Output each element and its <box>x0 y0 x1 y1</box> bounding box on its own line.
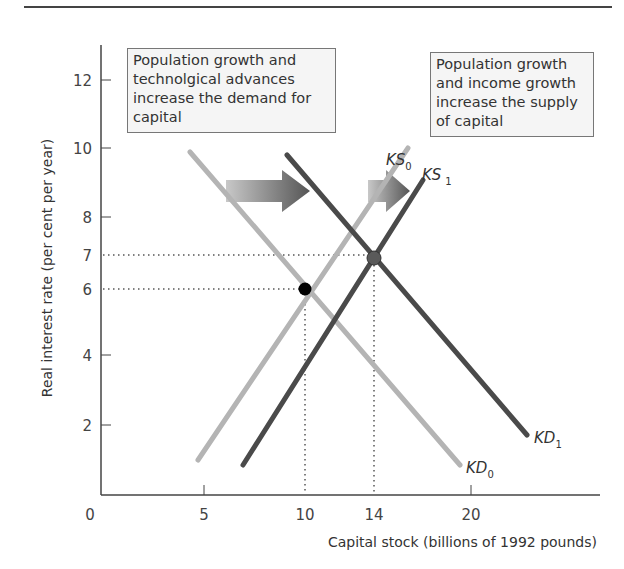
y-axis-title: Real interest rate (per cent per year) <box>39 139 55 397</box>
y-tick-7: 7 <box>82 247 92 265</box>
y-tick-8: 8 <box>82 209 92 227</box>
kd0-label: KD0 <box>466 459 494 480</box>
x-tick-5: 5 <box>199 506 209 524</box>
new-equilibrium-point <box>367 251 381 265</box>
ks1-label: KS1 <box>422 166 452 187</box>
supply-note-line-2: and income growth <box>436 74 588 93</box>
demand-note-line-2: technolgical advances <box>133 70 330 89</box>
ks0-label: KS0 <box>386 151 412 172</box>
kd1-label: KD1 <box>534 429 562 450</box>
supply-note-line-3: increase the supply <box>436 93 588 112</box>
x-tick-14: 14 <box>364 506 383 524</box>
x-tick-10: 10 <box>295 506 314 524</box>
origin-label: 0 <box>85 506 95 524</box>
y-tick-6: 6 <box>82 281 92 299</box>
demand-note-box: Population growth and technolgical advan… <box>127 48 336 133</box>
x-axis-title: Capital stock (billions of 1992 pounds) <box>328 534 597 550</box>
supply-note-line-1: Population growth <box>436 55 588 74</box>
guide-lines <box>103 255 374 494</box>
x-ticks: 0 5 10 14 20 <box>85 485 480 524</box>
y-tick-4: 4 <box>82 347 92 365</box>
initial-equilibrium-point <box>299 283 312 296</box>
supply-note-line-4: of capital <box>436 112 588 131</box>
demand-note-line-1: Population growth and <box>133 51 330 70</box>
demand-note-line-3: increase the demand for <box>133 89 330 108</box>
demand-note-line-4: capital <box>133 108 330 127</box>
y-tick-10: 10 <box>73 140 92 158</box>
ks1-curve <box>243 180 423 465</box>
supply-note-box: Population growth and income growth incr… <box>430 52 594 137</box>
y-tick-2: 2 <box>82 417 92 435</box>
x-tick-20: 20 <box>461 506 480 524</box>
kd1-curve <box>287 155 527 435</box>
y-tick-12: 12 <box>73 72 92 90</box>
y-ticks: 12 10 8 7 6 4 2 <box>73 72 111 435</box>
